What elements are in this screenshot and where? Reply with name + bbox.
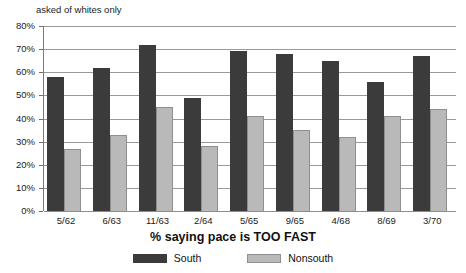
bar-group [364,26,410,211]
bar-group [90,26,136,211]
bar-nonsouth [156,107,173,211]
chart-container: asked of whites only 0%10%20%30%40%50%60… [0,0,466,273]
bar-nonsouth [110,135,127,211]
bar-group [136,26,182,211]
bar-south [184,98,201,211]
y-axis-tick-label: 0% [21,206,35,216]
x-axis-tick-label: 2/64 [181,214,227,228]
x-axis-tick-label: 4/68 [319,214,365,228]
nonsouth-swatch [247,254,281,263]
legend-item-label: South [174,252,201,264]
gridline: 0% [44,211,456,212]
bar-group [227,26,273,211]
x-axis-tick-label: 6/63 [90,214,136,228]
y-axis-tick [39,188,43,189]
legend-item: Nonsouth [247,252,333,264]
y-axis-tick-label: 60% [16,68,35,78]
bar-south [413,56,430,211]
x-axis-tick-label: 5/62 [44,214,90,228]
y-axis-tick-label: 20% [16,160,35,170]
y-axis-tick [39,26,43,27]
bar-group [44,26,90,211]
bar-south [276,54,293,211]
bar-group [319,26,365,211]
x-axis-tick-label: 5/65 [227,214,273,228]
bar-south [367,82,384,212]
chart-legend: SouthNonsouth [0,252,466,264]
y-axis-tick [39,211,43,212]
y-axis-tick-label: 30% [16,137,35,147]
bar-south [230,51,247,211]
x-axis-tick-label: 11/63 [136,214,182,228]
x-axis-tick-label: 8/69 [364,214,410,228]
bar-group [410,26,456,211]
bar-groups [44,26,456,211]
bar-south [322,61,339,211]
legend-item-label: Nonsouth [288,252,333,264]
y-axis-tick-label: 80% [16,21,35,31]
bar-nonsouth [339,137,356,211]
y-axis-tick-label: 70% [16,44,35,54]
y-axis-tick [39,95,43,96]
bar-nonsouth [430,109,447,211]
x-axis-tick-label: 3/70 [410,214,456,228]
bar-group [273,26,319,211]
y-axis-tick [39,49,43,50]
y-axis-tick-label: 10% [16,183,35,193]
bar-nonsouth [201,146,218,211]
y-axis-tick-label: 50% [16,91,35,101]
bar-nonsouth [247,116,264,211]
south-swatch [133,254,167,263]
y-axis-tick [39,165,43,166]
bar-nonsouth [64,149,81,211]
y-axis-tick [39,72,43,73]
y-axis-tick [39,142,43,143]
x-axis-tick-label: 9/65 [273,214,319,228]
plot-area: 0%10%20%30%40%50%60%70%80% [44,26,456,211]
y-axis-tick [39,119,43,120]
bar-south [139,45,156,212]
bar-nonsouth [384,116,401,211]
chart-caption: % saying pace is TOO FAST [0,230,466,244]
x-axis-labels: 5/626/6311/632/645/659/654/688/693/70 [44,214,456,228]
legend-item: South [133,252,201,264]
bar-nonsouth [293,130,310,211]
bar-group [181,26,227,211]
bar-south [47,77,64,211]
y-axis-tick-label: 40% [16,114,35,124]
bar-south [93,68,110,211]
chart-annotation: asked of whites only [36,4,122,16]
